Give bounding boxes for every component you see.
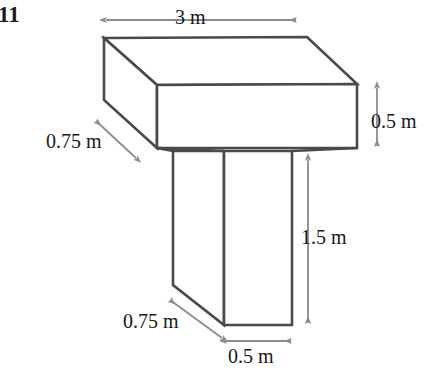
bar-depth-arrow: [96, 121, 136, 158]
dimension-label-top-width: 3 m: [175, 6, 206, 29]
bar-front-face: [157, 84, 357, 148]
dimension-label-stem-height: 1.5 m: [301, 226, 347, 249]
dimension-label-stem-width: 0.5 m: [228, 345, 274, 368]
stem-left-face: [173, 151, 224, 325]
figure-page: 11: [0, 0, 431, 377]
dimension-label-bar-height: 0.5 m: [371, 110, 417, 133]
t-prism-figure: [0, 0, 431, 377]
solid-outline: [104, 37, 357, 325]
stem-front-face: [224, 151, 292, 325]
dimension-label-stem-depth: 0.75 m: [123, 310, 179, 333]
dimension-label-bar-depth: 0.75 m: [46, 130, 102, 153]
